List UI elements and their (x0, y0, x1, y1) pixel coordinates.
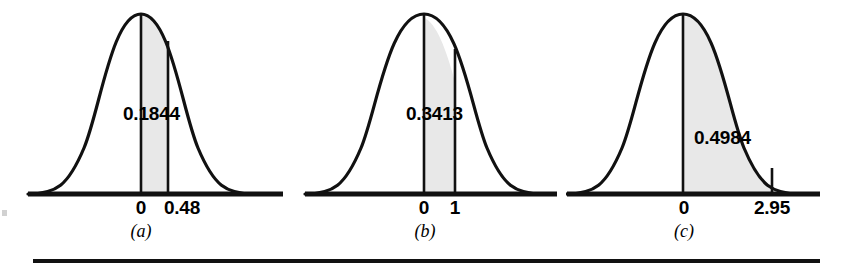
bottom-horizontal-rule (33, 259, 820, 263)
panel-caption-c: (c) (654, 222, 714, 240)
x-tick-label-upper: 2.95 (744, 198, 800, 217)
normal-curve-figure: 0.1844 0 0.48 (a) 0.3413 0 1 (b) (0, 0, 849, 270)
panel-a: 0.1844 0 0.48 (a) (0, 0, 283, 270)
panel-a-curve-graphic (0, 0, 283, 200)
scan-speck-artifact (2, 210, 7, 216)
x-tick-label-upper: 0.48 (157, 198, 207, 217)
area-value-label: 0.1844 (123, 104, 180, 123)
panel-c: 0.4984 0 2.95 (c) (566, 0, 849, 270)
x-tick-label-upper: 1 (440, 198, 470, 217)
panel-caption-a: (a) (111, 222, 171, 240)
shaded-area-region (141, 0, 168, 196)
panel-b: 0.3413 0 1 (b) (283, 0, 566, 270)
x-tick-label-lower: 0 (666, 198, 702, 217)
x-tick-label-lower: 0 (406, 198, 442, 217)
x-tick-label-lower: 0 (123, 198, 159, 217)
panel-c-curve-graphic (566, 0, 849, 200)
area-value-label: 0.3413 (406, 104, 463, 123)
panel-b-curve-graphic (283, 0, 566, 200)
shaded-area-region (424, 0, 455, 196)
area-value-label: 0.4984 (694, 128, 751, 147)
panel-caption-b: (b) (395, 222, 455, 240)
